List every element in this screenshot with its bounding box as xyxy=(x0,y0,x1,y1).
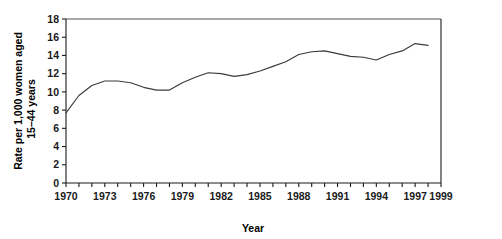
y-axis-tick-label: 12 xyxy=(47,67,59,79)
y-axis-tick-label: 8 xyxy=(53,104,59,116)
x-axis-tick-label: 1982 xyxy=(209,190,233,202)
y-axis-tick-label: 16 xyxy=(47,31,59,43)
x-axis-tick-label: 1997 xyxy=(403,190,427,202)
y-axis-tick-label: 10 xyxy=(47,86,59,98)
x-axis-tick-label: 1985 xyxy=(248,190,272,202)
y-axis-ticks xyxy=(62,19,66,183)
chart-figure: 024681012141618 197019731976197919821985… xyxy=(0,0,502,239)
y-axis-tick-label: 6 xyxy=(53,122,59,134)
y-axis-title-line-2: 15–44 years xyxy=(25,79,37,139)
data-series-line xyxy=(66,44,428,113)
y-axis-tick-label: 0 xyxy=(53,177,59,189)
y-axis-tick-labels: 024681012141618 xyxy=(47,13,59,189)
x-axis-title: Year xyxy=(242,222,264,234)
y-axis-tick-label: 18 xyxy=(47,13,59,25)
x-axis-ticks xyxy=(66,183,441,187)
x-axis-tick-label: 1973 xyxy=(93,190,117,202)
y-axis-title-line-1: Rate per 1,000 women aged xyxy=(12,32,24,170)
x-axis-tick-label: 1970 xyxy=(54,190,78,202)
x-axis-tick-label: 1976 xyxy=(132,190,156,202)
x-axis: 1970197319761979198219851988199119941997… xyxy=(54,183,453,202)
line-chart: 024681012141618 197019731976197919821985… xyxy=(0,0,502,239)
y-axis-tick-label: 2 xyxy=(53,158,59,170)
x-axis-tick-label: 1999 xyxy=(429,190,453,202)
y-axis: 024681012141618 xyxy=(47,13,66,189)
y-axis-tick-label: 14 xyxy=(47,49,59,61)
x-axis-tick-label: 1994 xyxy=(365,190,389,202)
y-axis-tick-label: 4 xyxy=(53,140,59,152)
plot-frame xyxy=(66,19,441,183)
x-axis-tick-label: 1991 xyxy=(326,190,350,202)
x-axis-tick-label: 1979 xyxy=(171,190,195,202)
x-axis-tick-labels: 1970197319761979198219851988199119941997… xyxy=(54,190,453,202)
x-axis-tick-label: 1988 xyxy=(287,190,311,202)
